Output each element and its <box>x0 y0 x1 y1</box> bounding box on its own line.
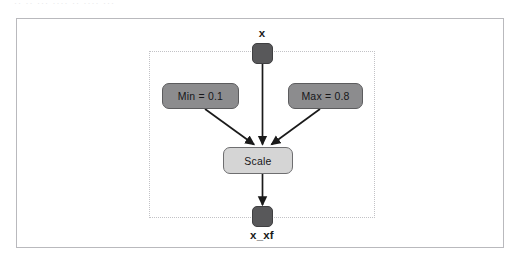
output-port-label: x_xf <box>202 229 322 241</box>
scan-artifact-text: ·· ·· ··· ···· ·· ···· ··· <box>14 0 194 7</box>
output-port-node-x-xf[interactable] <box>252 206 273 227</box>
scale-operation-block[interactable]: Scale <box>223 147 293 174</box>
input-port-node-x[interactable] <box>252 43 273 64</box>
max-constant-block[interactable]: Max = 0.8 <box>288 83 363 109</box>
min-constant-block[interactable]: Min = 0.1 <box>162 83 239 109</box>
scale-subsystem-boundary <box>149 51 375 218</box>
input-port-label: x <box>202 27 322 39</box>
diagram-canvas: ·· ·· ··· ···· ·· ···· ··· x Min = 0.1 M… <box>0 0 519 263</box>
